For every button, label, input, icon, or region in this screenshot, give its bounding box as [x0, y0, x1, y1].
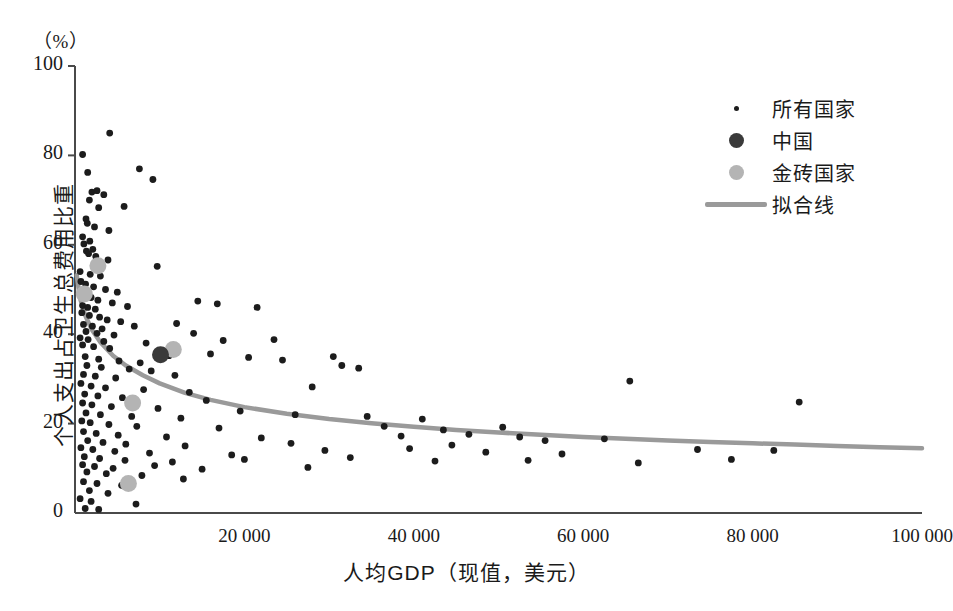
data-point [91, 463, 98, 470]
y-tick-label: 100 [15, 52, 63, 75]
data-point [525, 457, 532, 464]
x-tick-label: 20 000 [218, 525, 270, 547]
data-point [83, 410, 90, 417]
data-point [84, 220, 91, 227]
data-point [288, 440, 295, 447]
data-point [84, 437, 91, 444]
data-point [254, 304, 261, 311]
data-point [635, 460, 642, 467]
data-point [95, 393, 102, 400]
data-point [92, 306, 99, 313]
data-point [199, 466, 206, 473]
legend-marker-small-dot-icon [700, 106, 772, 111]
data-point [95, 204, 102, 211]
data-point [92, 373, 99, 380]
data-point [84, 469, 91, 476]
data-point [482, 449, 489, 456]
data-point [102, 384, 109, 391]
data-point [139, 472, 146, 479]
data-point [398, 433, 405, 440]
data-point [169, 459, 176, 466]
data-point [440, 427, 447, 434]
data-point [81, 453, 88, 460]
data-point [728, 456, 735, 463]
data-point [347, 454, 354, 461]
data-point [151, 462, 158, 469]
data-point [128, 413, 135, 420]
data-point [182, 443, 189, 450]
data-point [419, 416, 426, 423]
data-point [96, 455, 103, 462]
legend-item-brics[interactable]: 金砖国家 [700, 156, 920, 188]
data-point [126, 366, 133, 373]
legend-label-china: 中国 [772, 126, 814, 155]
data-point [626, 378, 633, 385]
data-point [79, 342, 86, 349]
chart-legend: 所有国家 中国 金砖国家 拟合线 [700, 92, 920, 220]
data-point [95, 506, 102, 513]
data-point [124, 303, 131, 310]
data-point [114, 289, 121, 296]
data-point [381, 423, 388, 430]
data-point [207, 351, 214, 358]
data-point [338, 362, 345, 369]
data-point [178, 415, 185, 422]
data-point [102, 286, 109, 293]
data-point [88, 383, 95, 390]
data-point [137, 359, 144, 366]
data-point [94, 480, 101, 487]
data-point [86, 238, 93, 245]
legend-item-fit-line[interactable]: 拟合线 [700, 188, 920, 220]
data-point [601, 435, 608, 442]
data-point [148, 368, 155, 375]
data-point [82, 353, 89, 360]
data-points-china [152, 346, 169, 363]
data-point [121, 203, 128, 210]
data-point [94, 330, 101, 337]
data-point [95, 356, 102, 363]
data-point [77, 268, 84, 275]
data-point [124, 395, 141, 412]
data-point [79, 461, 86, 468]
data-point [292, 411, 299, 418]
data-point [172, 372, 179, 379]
data-point [104, 317, 111, 324]
data-point [796, 399, 803, 406]
data-point [108, 403, 115, 410]
data-point [100, 191, 107, 198]
data-point [694, 446, 701, 453]
data-point [241, 456, 248, 463]
data-point [81, 391, 88, 398]
data-point [499, 424, 506, 431]
y-tick-label: 0 [15, 499, 63, 522]
y-axis-unit-label: （%） [33, 26, 88, 53]
legend-item-all-countries[interactable]: 所有国家 [700, 92, 920, 124]
data-point [78, 418, 85, 425]
data-point [86, 312, 93, 319]
data-point [258, 435, 265, 442]
data-point [85, 250, 92, 257]
data-point [112, 375, 119, 382]
data-points-all-countries [77, 130, 803, 513]
data-point [90, 343, 97, 350]
legend-label-fit-line: 拟合线 [772, 190, 835, 219]
data-point [279, 357, 286, 364]
x-tick-label: 60 000 [557, 525, 609, 547]
data-point [116, 358, 123, 365]
data-point [80, 371, 87, 378]
data-point [140, 386, 147, 393]
data-point [406, 445, 413, 452]
data-point [237, 408, 244, 415]
data-point [150, 176, 157, 183]
legend-marker-china-dot-icon [700, 133, 772, 148]
data-point [106, 227, 113, 234]
data-point [99, 325, 106, 332]
legend-item-china[interactable]: 中国 [700, 124, 920, 156]
data-point [100, 439, 107, 446]
data-point [559, 451, 566, 458]
fit-line [77, 275, 922, 448]
data-point [89, 257, 106, 274]
data-point [111, 332, 118, 339]
data-point [96, 314, 103, 321]
data-point [214, 300, 221, 307]
